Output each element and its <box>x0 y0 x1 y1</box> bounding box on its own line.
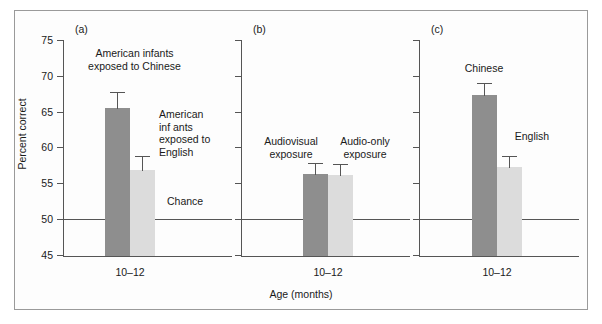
panel-b-x-category: 10–12 <box>293 266 363 278</box>
panel-b-tick-75 <box>235 40 241 41</box>
y-tick-label-45: 45 <box>27 249 53 261</box>
panel-a-chance-label: Chance <box>167 195 227 208</box>
panel-a-errorbar-light-stem <box>142 156 143 171</box>
panel-c-y-axis <box>419 40 420 256</box>
panel-a-letter: (a) <box>75 23 88 35</box>
panel-b-label-dark: Audiovisual exposure <box>255 135 327 160</box>
panel-c-errorbar-dark-stem <box>484 83 485 96</box>
panel-c-label-light: English <box>496 130 568 143</box>
panel-c-tick-60 <box>413 147 419 148</box>
plot-area: 75 70 65 60 55 50 45 Percent correct (a)… <box>0 0 602 324</box>
panel-c-bar-light <box>497 167 522 256</box>
panel-b-letter: (b) <box>253 23 266 35</box>
y-tick-55 <box>57 183 63 184</box>
panel-b-tick-65 <box>235 112 241 113</box>
panel-c-errorbar-light-cap <box>502 156 517 157</box>
panel-b-tick-60 <box>235 147 241 148</box>
panel-b-errorbar-dark-stem <box>315 163 316 175</box>
panel-b-errorbar-light-stem <box>340 164 341 176</box>
panel-b-tick-55 <box>235 183 241 184</box>
y-tick-60 <box>57 147 63 148</box>
y-tick-75 <box>57 40 63 41</box>
y-axis-line <box>63 40 64 256</box>
figure-root: 75 70 65 60 55 50 45 Percent correct (a)… <box>0 0 602 324</box>
y-tick-70 <box>57 76 63 77</box>
panel-c-bar-dark <box>472 95 497 256</box>
panel-a-errorbar-dark-stem <box>117 92 118 109</box>
panel-c-tick-70 <box>413 76 419 77</box>
panel-b-y-axis <box>241 40 242 256</box>
panel-a-bar-dark <box>105 108 130 256</box>
panel-b-x-axis <box>241 256 410 257</box>
panel-c-letter: (c) <box>431 23 443 35</box>
y-tick-label-65: 65 <box>27 106 53 118</box>
panel-b-errorbar-light-cap <box>333 164 348 165</box>
panel-c-tick-75 <box>413 40 419 41</box>
panel-c-errorbar-light-stem <box>509 156 510 168</box>
panel-c-x-axis <box>419 256 579 257</box>
y-tick-label-70: 70 <box>27 70 53 82</box>
panel-b-label-light: Audio-only exposure <box>329 135 401 160</box>
panel-a-label-dark: American infants exposed to Chinese <box>72 47 197 72</box>
y-tick-label-50: 50 <box>27 213 53 225</box>
panel-c-label-dark: Chinese <box>448 62 520 75</box>
panel-a-bar-light <box>130 170 155 256</box>
panel-a-x-axis <box>63 256 232 257</box>
panel-a-errorbar-light-cap <box>135 156 150 157</box>
panel-c-x-category: 10–12 <box>462 266 532 278</box>
y-tick-label-55: 55 <box>27 177 53 189</box>
panel-a-label-light: American inf ants exposed to English <box>159 108 231 158</box>
panel-a-errorbar-dark-cap <box>110 92 125 93</box>
y-tick-label-75: 75 <box>27 34 53 46</box>
panel-b-errorbar-dark-cap <box>308 163 323 164</box>
y-axis-label: Percent correct <box>16 79 28 189</box>
panel-a-x-category: 10–12 <box>95 266 165 278</box>
panel-c-tick-55 <box>413 183 419 184</box>
panel-c-tick-65 <box>413 112 419 113</box>
panel-b-bar-dark <box>303 174 328 256</box>
panel-b-bar-light <box>328 175 353 256</box>
panel-c-errorbar-dark-cap <box>477 83 492 84</box>
x-axis-label: Age (months) <box>241 288 361 300</box>
y-tick-label-60: 60 <box>27 141 53 153</box>
y-tick-65 <box>57 112 63 113</box>
panel-b-tick-70 <box>235 76 241 77</box>
